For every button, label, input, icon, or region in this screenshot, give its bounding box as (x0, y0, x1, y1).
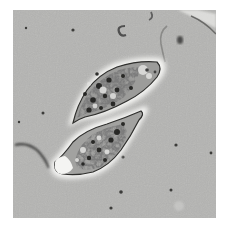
micrograph-frame (13, 10, 216, 218)
micrograph (13, 10, 216, 218)
blur-blob (174, 201, 184, 211)
debris-dot (177, 36, 183, 44)
